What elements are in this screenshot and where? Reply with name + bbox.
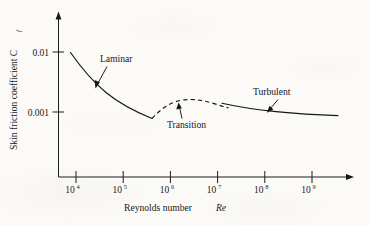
transition-curve: [152, 100, 229, 119]
x-tick-exp-1e5: 5: [124, 183, 127, 190]
x-tick-base-1e8: 10: [254, 185, 264, 195]
y-tick-label-0.01: 0.01: [32, 48, 49, 58]
turbulent-label: Turbulent: [253, 86, 291, 97]
x-tick-label-1e5: 10 5: [112, 183, 126, 195]
y-axis-title-text: Skin friction coefficient C: [8, 50, 19, 150]
x-tick-exp-1e8: 8: [265, 183, 268, 190]
transition-leader-line: [180, 108, 183, 119]
annotation-turbulent: Turbulent: [253, 86, 291, 113]
annotation-laminar: Laminar: [95, 53, 134, 89]
x-tick-label-1e6: 10 6: [160, 183, 174, 195]
y-tick-labels: 0.01 0.001: [28, 48, 50, 118]
x-tick-exp-1e9: 9: [313, 183, 316, 190]
x-tick-label-1e4: 10 4: [65, 183, 80, 195]
laminar-leader-line: [98, 67, 108, 85]
x-tick-label-1e8: 10 8: [254, 183, 268, 195]
x-tick-label-1e7: 10 7: [207, 183, 222, 195]
transition-label: Transition: [167, 119, 206, 130]
x-tick-exp-1e6: 6: [171, 183, 174, 190]
x-tick-base-1e6: 10: [160, 185, 170, 195]
x-tick-base-1e9: 10: [301, 185, 311, 195]
x-axis-title: Reynolds number Re: [124, 202, 227, 213]
transition-arrowhead: [176, 103, 182, 110]
x-axis-arrowhead: [346, 174, 354, 180]
x-tick-label-1e9: 10 9: [301, 183, 315, 195]
skin-friction-coefficient-chart: 0.01 0.001 10 4 10 5 10 6 10 7 10 8: [0, 0, 370, 225]
x-tick-labels: 10 4 10 5 10 6 10 7 10 8 10 9: [65, 183, 315, 195]
y-tick-label-0.001: 0.001: [28, 108, 50, 118]
x-tick-base-1e4: 10: [65, 185, 75, 195]
y-axis-title-subscript: f: [15, 29, 22, 32]
x-tick-base-1e5: 10: [112, 185, 122, 195]
x-axis-title-symbol: Re: [215, 202, 227, 213]
x-tick-exp-1e4: 4: [77, 183, 81, 190]
x-tick-exp-1e7: 7: [218, 183, 222, 190]
y-axis-arrowhead: [56, 12, 62, 20]
annotation-transition: Transition: [167, 103, 206, 131]
turbulent-curve: [222, 103, 338, 115]
laminar-label: Laminar: [100, 53, 133, 64]
axes-group: [53, 12, 355, 184]
y-axis-title: Skin friction coefficient C f: [8, 29, 22, 150]
x-axis-title-text: Reynolds number: [124, 202, 193, 213]
x-tick-base-1e7: 10: [207, 185, 217, 195]
